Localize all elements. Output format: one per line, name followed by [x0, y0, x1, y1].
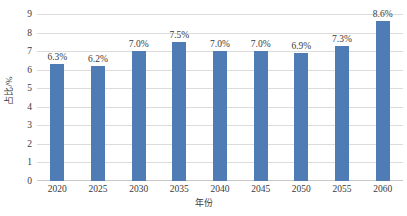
- y-axis-tick-label: 9: [27, 9, 32, 19]
- bar-group[interactable]: 7.0%: [200, 14, 241, 181]
- bar-value-label: 7.0%: [251, 39, 271, 49]
- x-axis-tick-label: 2025: [89, 183, 108, 195]
- bar-group[interactable]: 6.2%: [78, 14, 119, 181]
- bar-group[interactable]: 7.3%: [322, 14, 363, 181]
- bar-group[interactable]: 7.0%: [240, 14, 281, 181]
- x-axis-tick-label: 2045: [251, 183, 270, 195]
- y-axis-tick-label: 1: [27, 157, 32, 167]
- bar-chart: 占比/% 9876543210 6.3%6.2%7.0%7.5%7.0%7.0%…: [0, 0, 407, 216]
- bar-value-label: 7.3%: [332, 34, 352, 44]
- x-axis-tick-label: 2040: [211, 183, 230, 195]
- bar-value-label: 8.6%: [373, 9, 393, 19]
- y-axis-tick-label: 6: [27, 65, 32, 75]
- bar[interactable]: [50, 64, 64, 181]
- x-axis-tick-label: 2055: [333, 183, 352, 195]
- bar[interactable]: [213, 51, 227, 181]
- bar[interactable]: [91, 66, 105, 181]
- x-axis-tick-label: 2035: [170, 183, 189, 195]
- bar[interactable]: [294, 53, 308, 181]
- x-axis-tick-label: 2030: [129, 183, 148, 195]
- y-axis-tick-labels: 9876543210: [16, 0, 34, 181]
- bar[interactable]: [254, 51, 268, 181]
- x-axis-tick-label: 2020: [48, 183, 67, 195]
- bar-value-label: 6.2%: [88, 54, 108, 64]
- bar-group[interactable]: 6.9%: [281, 14, 322, 181]
- x-axis-tick-labels: 202020252030203520402045205020552060: [37, 183, 403, 197]
- bar-group[interactable]: 7.5%: [159, 14, 200, 181]
- y-axis-tick-label: 0: [27, 176, 32, 186]
- bars-layer: 6.3%6.2%7.0%7.5%7.0%7.0%6.9%7.3%8.6%: [37, 14, 403, 181]
- bar[interactable]: [335, 46, 349, 181]
- bar-value-label: 7.5%: [169, 30, 189, 40]
- bar-group[interactable]: 8.6%: [362, 14, 403, 181]
- bar-group[interactable]: 6.3%: [37, 14, 78, 181]
- y-axis-title-text: 占比/%: [2, 77, 15, 105]
- x-axis-tick-label: 2050: [292, 183, 311, 195]
- y-axis-tick-label: 2: [27, 139, 32, 149]
- x-axis-tick-label: 2060: [373, 183, 392, 195]
- bar-value-label: 7.0%: [210, 39, 230, 49]
- y-axis-tick-label: 5: [27, 83, 32, 93]
- bar[interactable]: [172, 42, 186, 181]
- y-axis-tick-label: 3: [27, 120, 32, 130]
- y-axis-tick-label: 7: [27, 46, 32, 56]
- y-axis-tick-label: 4: [27, 102, 32, 112]
- bar-value-label: 6.9%: [291, 41, 311, 51]
- bar[interactable]: [132, 51, 146, 181]
- bar-value-label: 6.3%: [47, 52, 67, 62]
- bar-value-label: 7.0%: [129, 39, 149, 49]
- y-axis-tick-label: 8: [27, 28, 32, 38]
- y-axis-title: 占比/%: [1, 0, 15, 181]
- bar[interactable]: [376, 21, 390, 181]
- plot-area: 6.3%6.2%7.0%7.5%7.0%7.0%6.9%7.3%8.6%: [37, 14, 403, 181]
- x-axis-title: 年份: [0, 197, 407, 209]
- bar-group[interactable]: 7.0%: [118, 14, 159, 181]
